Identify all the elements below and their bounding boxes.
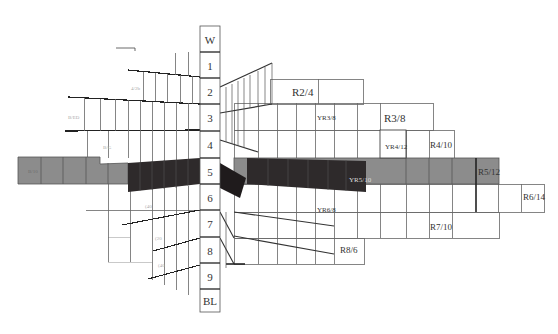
- label-r2-4: R2/4: [292, 86, 314, 98]
- value-label-7: 7: [207, 218, 213, 230]
- value-label-1: 1: [207, 60, 213, 72]
- value5-dark-band-left: [128, 158, 200, 192]
- label-yr5-10: YR5/10: [349, 176, 372, 184]
- label-r6-14: R6/14: [523, 192, 546, 202]
- label-r4-10: R4/10: [430, 140, 453, 150]
- label-left-4: B/G: [103, 145, 112, 150]
- label-yr4-12: YR4/12: [385, 143, 408, 151]
- label-r3-8: R3/8: [384, 112, 406, 124]
- label-r5-12: R5/12: [478, 167, 500, 177]
- munsell-diagram: W 1 2 3 4 5 6 7 8 9 BL R2/4 YR3/8 R3/8 Y…: [0, 0, 558, 334]
- label-left-8: (40: [158, 263, 165, 268]
- label-yr6-8: YR6/8: [317, 206, 336, 214]
- label-left-5: B/10: [28, 169, 38, 174]
- value-label-5: 5: [207, 166, 213, 178]
- value-label-8: 8: [207, 245, 213, 257]
- label-left-7: (20: [155, 236, 162, 241]
- value-label-2: 2: [207, 86, 213, 98]
- label-left-2: 4/2b: [131, 86, 140, 91]
- value5-dark-band-right: [247, 158, 366, 192]
- label-r8-6: R8/6: [340, 245, 358, 255]
- value-label-9: 9: [207, 271, 213, 283]
- value-label-4: 4: [207, 139, 213, 151]
- value-label-bl: BL: [203, 295, 217, 307]
- value-scale: W 1 2 3 4 5 6 7 8 9 BL: [200, 26, 220, 312]
- label-left-3: B/ED: [68, 115, 80, 120]
- value-label-6: 6: [207, 192, 213, 204]
- label-r7-10: R7/10: [430, 222, 453, 232]
- label-yr3-8: YR3/8: [317, 114, 336, 122]
- value-label-w: W: [205, 34, 216, 46]
- value-label-3: 3: [207, 112, 213, 124]
- label-left-6: (40: [145, 204, 152, 209]
